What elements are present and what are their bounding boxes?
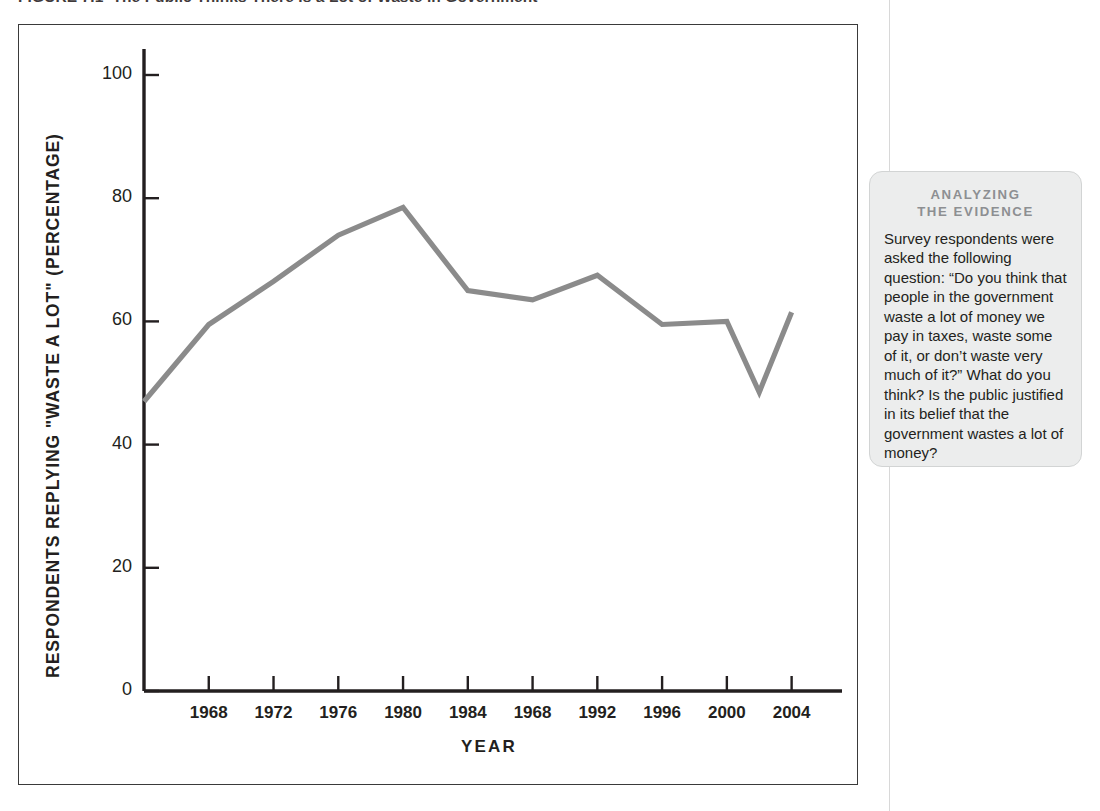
x-tick-label-0: 1968 (177, 703, 241, 723)
analyzing-heading-line-1: ANALYZING (884, 186, 1067, 203)
y-tick-label-60: 60 (86, 309, 132, 330)
figure-number: FIGURE 7.1 (18, 0, 103, 5)
ticks-group (144, 75, 792, 691)
y-tick-label-80: 80 (86, 186, 132, 207)
analyzing-heading: ANALYZING THE EVIDENCE (884, 186, 1067, 221)
y-tick-label-40: 40 (86, 433, 132, 454)
x-tick-label-8: 2000 (695, 703, 759, 723)
analyzing-the-evidence-box: ANALYZING THE EVIDENCE Survey respondent… (869, 171, 1082, 467)
line-chart-svg (19, 25, 859, 786)
plot-area: 0204060801001968197219761980198419681992… (19, 25, 859, 786)
x-tick-label-4: 1984 (436, 703, 500, 723)
x-tick-label-7: 1996 (630, 703, 694, 723)
analyzing-body-text: Survey respondents were asked the follow… (884, 229, 1067, 463)
x-tick-label-5: 1968 (501, 703, 565, 723)
figure-caption: FIGURE 7.1The Public Thinks There Is a L… (18, 0, 838, 8)
y-tick-label-100: 100 (86, 63, 132, 84)
x-tick-label-3: 1980 (371, 703, 435, 723)
y-tick-label-0: 0 (86, 679, 132, 700)
x-tick-label-1: 1972 (242, 703, 306, 723)
chart-frame: RESPONDENTS REPLYING "WASTE A LOT" (PERC… (18, 24, 858, 785)
analyzing-heading-line-2: THE EVIDENCE (884, 203, 1067, 220)
x-axis-title: YEAR (139, 737, 839, 757)
axes-group (144, 49, 842, 691)
figure-title: The Public Thinks There Is a Lot of Wast… (112, 0, 537, 5)
x-tick-label-9: 2004 (760, 703, 824, 723)
data-series-line (144, 207, 792, 401)
x-tick-label-2: 1976 (306, 703, 370, 723)
y-tick-label-20: 20 (86, 556, 132, 577)
x-tick-label-6: 1992 (565, 703, 629, 723)
